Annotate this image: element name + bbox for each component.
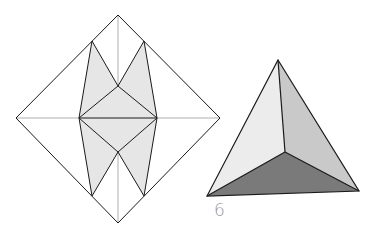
crease-pattern — [16, 15, 220, 223]
origami-diagram — [0, 0, 378, 234]
step-number: 6 — [214, 200, 225, 220]
tetrahedron — [207, 60, 359, 196]
